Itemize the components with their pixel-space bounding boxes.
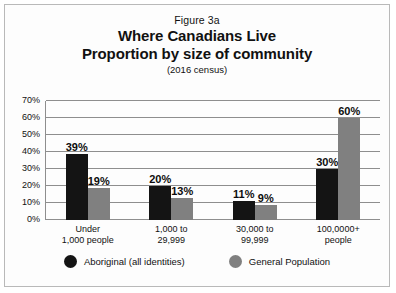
chart-legend: Aboriginal (all identities)General Popul… xyxy=(5,255,389,268)
x-axis-category-line: 30,000 to xyxy=(236,224,274,235)
bar-group: 39%19%Under1,000 people xyxy=(46,101,130,220)
plot-area: 0%10%20%30%40%50%60%70% 39%19%Under1,000… xyxy=(46,101,380,220)
y-axis-tick-label: 30% xyxy=(22,163,40,173)
circle-marker-icon xyxy=(64,255,77,268)
y-axis-tick-label: 0% xyxy=(27,214,40,224)
y-axis-tick-label: 10% xyxy=(22,197,40,207)
chart-title-line-1: Where Canadians Live xyxy=(5,27,389,45)
y-axis-tick-label: 50% xyxy=(22,129,40,139)
legend-label: General Population xyxy=(249,256,330,267)
bar-general-population[interactable]: 19% xyxy=(88,188,110,220)
bar-value-label: 20% xyxy=(149,173,171,185)
bar-value-label: 19% xyxy=(88,175,110,187)
bar-aboriginal[interactable]: 30% xyxy=(316,169,338,220)
y-axis-tick-label: 70% xyxy=(22,95,40,105)
bar-value-label: 30% xyxy=(316,156,338,168)
bar-value-label: 13% xyxy=(171,185,193,197)
figure-number: Figure 3a xyxy=(5,14,389,27)
y-axis-tick-label: 40% xyxy=(22,146,40,156)
circle-marker-icon xyxy=(229,255,242,268)
bar-group: 11%9%30,000 to99,999 xyxy=(213,101,297,220)
x-axis-category-label: Under1,000 people xyxy=(62,224,114,246)
legend-label: Aboriginal (all identities) xyxy=(84,256,185,267)
bar-general-population[interactable]: 9% xyxy=(255,205,277,220)
bar-general-population[interactable]: 60% xyxy=(338,118,360,220)
x-axis-category-line: people xyxy=(317,235,360,246)
bar-aboriginal[interactable]: 11% xyxy=(233,201,255,220)
chart-title-block: Figure 3a Where Canadians Live Proportio… xyxy=(5,14,389,77)
x-axis-category-line: 1,000 people xyxy=(62,235,114,246)
bar-value-label: 60% xyxy=(338,105,360,117)
x-axis-category-line: Under xyxy=(62,224,114,235)
bar-aboriginal[interactable]: 20% xyxy=(149,186,171,220)
x-axis-category-line: 100,0000+ xyxy=(317,224,360,235)
x-axis-category-line: 99,999 xyxy=(236,235,274,246)
bar-value-label: 39% xyxy=(66,141,88,153)
x-axis-category-line: 29,999 xyxy=(155,235,188,246)
bar-aboriginal[interactable]: 39% xyxy=(66,154,88,220)
bar-value-label: 9% xyxy=(258,192,274,204)
figure-container: Figure 3a Where Canadians Live Proportio… xyxy=(4,4,390,287)
x-axis-category-line: 1,000 to xyxy=(155,224,188,235)
x-axis-category-label: 1,000 to29,999 xyxy=(155,224,188,246)
legend-item[interactable]: Aboriginal (all identities) xyxy=(64,255,185,268)
y-axis-tick-label: 60% xyxy=(22,112,40,122)
x-axis-category-label: 30,000 to99,999 xyxy=(236,224,274,246)
bar-general-population[interactable]: 13% xyxy=(171,198,193,220)
chart-subtitle: (2016 census) xyxy=(5,62,389,77)
chart-title-line-2: Proportion by size of community xyxy=(5,45,389,63)
legend-item[interactable]: General Population xyxy=(229,255,330,268)
bar-group: 30%60%100,0000+people xyxy=(297,101,381,220)
y-axis-tick-label: 20% xyxy=(22,180,40,190)
x-axis-category-label: 100,0000+people xyxy=(317,224,360,246)
bar-group: 20%13%1,000 to29,999 xyxy=(130,101,214,220)
bar-value-label: 11% xyxy=(233,188,254,200)
